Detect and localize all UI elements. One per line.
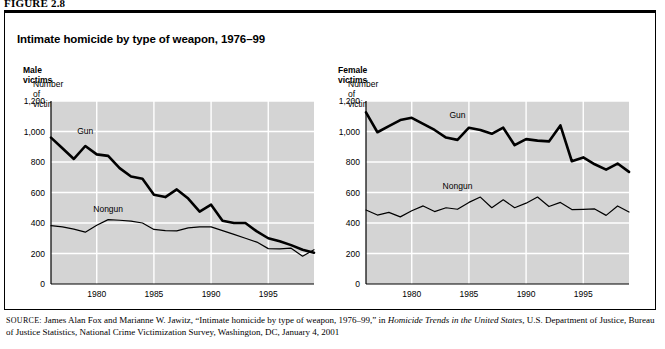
source-italic-title: Homicide Trends in the United States — [388, 315, 522, 325]
series-label-gun: Gun — [449, 110, 465, 120]
chart-female-plot: 02004006008001,0001,2001980198519901995G… — [330, 95, 635, 310]
x-axis-tick-label: 1980 — [87, 289, 106, 299]
y-axis-tick-label: 0 — [40, 279, 45, 289]
y-axis-tick-label: 1,200 — [339, 96, 361, 106]
y-axis-tick-label: 600 — [31, 188, 45, 198]
series-label-nongun: Nongun — [443, 181, 473, 191]
source-text-1: James Alan Fox and Marianne W. Jawitz, “… — [42, 315, 388, 325]
y-axis-tick-label: 1,000 — [339, 127, 361, 137]
y-axis-tick-label: 0 — [355, 279, 360, 289]
x-axis-tick-label: 1985 — [144, 289, 163, 299]
chart-male-svg: 02004006008001,0001,2001980198519901995G… — [15, 95, 320, 310]
y-axis-tick-label: 800 — [346, 157, 360, 167]
y-axis-tick-label: 600 — [346, 188, 360, 198]
y-axis-tick-label: 1,000 — [24, 127, 46, 137]
chart-male-plot: 02004006008001,0001,2001980198519901995G… — [15, 95, 320, 310]
y-axis-tick-label: 200 — [31, 249, 45, 259]
source-prefix: SOURCE: — [6, 316, 42, 325]
x-axis-tick-label: 1985 — [459, 289, 478, 299]
y-axis-tick-label: 1,200 — [24, 96, 46, 106]
x-axis-tick-label: 1990 — [202, 289, 221, 299]
y-axis-tick-label: 400 — [346, 218, 360, 228]
x-axis-tick-label: 1990 — [517, 289, 536, 299]
x-axis-tick-label: 1995 — [259, 289, 278, 299]
y-axis-tick-label: 800 — [31, 157, 45, 167]
x-axis-tick-label: 1980 — [402, 289, 421, 299]
series-label-nongun: Nongun — [93, 204, 123, 214]
chart-female-svg: 02004006008001,0001,2001980198519901995G… — [330, 95, 635, 310]
series-label-gun: Gun — [77, 126, 93, 136]
page-title: Intimate homicide by type of weapon, 197… — [17, 33, 265, 45]
x-axis-tick-label: 1995 — [574, 289, 593, 299]
source-citation: SOURCE: James Alan Fox and Marianne W. J… — [6, 315, 658, 338]
figure-panel: Intimate homicide by type of weapon, 197… — [4, 10, 656, 310]
figure-label: FIGURE 2.8 — [4, 0, 65, 9]
y-axis-tick-label: 400 — [31, 218, 45, 228]
y-axis-tick-label: 200 — [346, 249, 360, 259]
